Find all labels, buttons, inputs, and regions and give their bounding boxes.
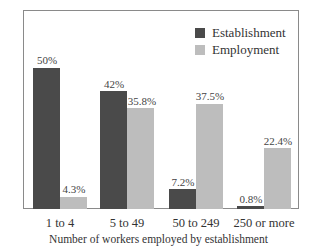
value-label: 22.4% — [258, 135, 298, 147]
value-label: 37.5% — [190, 90, 230, 102]
bar-establishment-5-to-49 — [100, 91, 127, 209]
bar-employment-1-to-4 — [60, 197, 87, 209]
x-tick-label: 250 or more — [224, 216, 304, 231]
legend-swatch-light — [195, 45, 205, 55]
value-label: 4.3% — [54, 183, 94, 195]
bar-establishment-50-to-249 — [169, 189, 196, 209]
legend-swatch-dark — [195, 28, 205, 38]
value-label: 35.8% — [122, 95, 162, 107]
bar-establishment-250-or-more — [237, 206, 264, 209]
legend-label: Employment — [212, 42, 279, 58]
value-label: 0.8% — [231, 193, 271, 205]
x-axis-title: Number of workers employed by establishm… — [0, 233, 317, 245]
value-label: 50% — [27, 54, 67, 66]
value-label: 42% — [94, 78, 134, 90]
legend-item-employment: Employment — [195, 41, 286, 58]
x-tick-label: 5 to 49 — [87, 216, 167, 231]
bar-employment-50-to-249 — [196, 104, 223, 209]
legend: Establishment Employment — [195, 24, 286, 58]
bar-employment-5-to-49 — [127, 108, 154, 209]
value-label: 7.2% — [163, 176, 203, 188]
legend-item-establishment: Establishment — [195, 24, 286, 41]
legend-label: Establishment — [212, 25, 286, 41]
